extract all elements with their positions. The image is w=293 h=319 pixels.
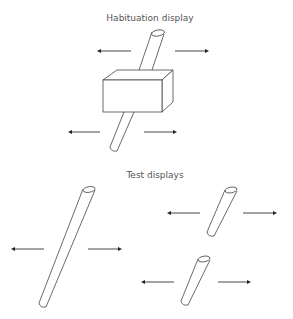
habituation-title: Habituation display <box>106 13 194 23</box>
diagram-stage: Habituation display Test displays <box>0 0 293 319</box>
test-display-complete-rod <box>13 186 120 307</box>
diagram-svg: Habituation display Test displays <box>0 0 293 319</box>
box-occluder <box>103 70 173 112</box>
test-display-broken-rod-bottom <box>143 255 249 305</box>
test-display-broken-rod-top <box>169 186 275 236</box>
test-title: Test displays <box>125 170 184 180</box>
test-section: Test displays <box>13 170 275 307</box>
rod-upper-segment <box>139 29 165 70</box>
box-top-face <box>103 70 173 80</box>
habituation-section: Habituation display <box>70 13 207 151</box>
box-front-face <box>103 80 162 112</box>
rod-lower-segment <box>110 112 134 151</box>
